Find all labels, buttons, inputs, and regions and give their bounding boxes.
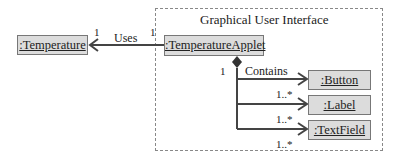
uses-label: Uses bbox=[114, 31, 137, 46]
uses-mult-right: 1 bbox=[150, 26, 156, 38]
label-mult: 1..* bbox=[276, 113, 293, 125]
button-mult: 1..* bbox=[276, 88, 293, 100]
button-object: :Button bbox=[308, 70, 371, 90]
label-object: :Label bbox=[308, 95, 371, 115]
textfield-object: :TextField bbox=[308, 120, 371, 140]
uses-mult-left: 1 bbox=[94, 26, 100, 38]
temperature-applet-object: :TemperatureApplet bbox=[164, 35, 264, 56]
contains-label: Contains bbox=[245, 64, 288, 79]
temperature-object: :Temperature bbox=[17, 35, 88, 55]
contains-mult-owner: 1 bbox=[220, 65, 226, 77]
textfield-mult: 1..* bbox=[276, 138, 293, 150]
